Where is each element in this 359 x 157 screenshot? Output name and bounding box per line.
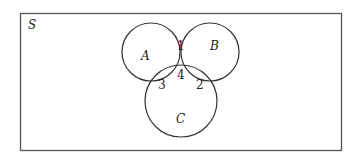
region-2-label: 2 (196, 78, 204, 92)
circle-a (122, 23, 180, 81)
set-b-label: B (209, 39, 219, 53)
universe-rectangle (21, 14, 342, 151)
universe-label: S (28, 18, 36, 32)
set-c-label: C (176, 112, 185, 126)
region-3-label: 3 (158, 78, 166, 92)
region-4-label: 4 (177, 68, 185, 82)
region-1-label: 1 (177, 39, 185, 53)
set-a-label: A (140, 49, 150, 63)
venn-diagram: S A B C 1 2 3 4 (0, 0, 359, 157)
